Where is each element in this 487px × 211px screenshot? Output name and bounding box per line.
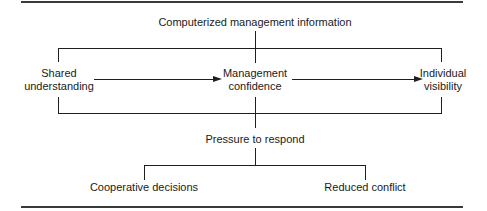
connector-bottom <box>255 148 256 165</box>
branch-right <box>365 165 366 180</box>
top-rule <box>21 1 463 3</box>
node-shared-understanding: Shared understanding <box>18 67 100 93</box>
arrow-right-shaft <box>292 79 415 80</box>
box-right-lower <box>441 97 442 114</box>
node-pressure-to-respond: Pressure to respond <box>195 133 315 146</box>
node-cooperative-decisions: Cooperative decisions <box>84 181 204 194</box>
connector-top <box>255 31 256 63</box>
arrow-left-shaft <box>94 79 214 80</box>
bottom-rule <box>21 206 463 208</box>
box-right-upper <box>441 48 442 62</box>
box-left-upper <box>58 48 59 62</box>
node-reduced-conflict: Reduced conflict <box>315 181 415 194</box>
branch-left <box>144 165 145 180</box>
node-management-confidence: Management confidence <box>220 67 290 93</box>
node-computerized-management-information: Computerized management information <box>155 16 355 29</box>
box-top <box>58 48 442 49</box>
box-bottom <box>58 113 442 114</box>
node-individual-visibility: Individual visibility <box>404 67 482 93</box>
box-left-lower <box>58 97 59 114</box>
connector-middle <box>255 97 256 128</box>
branch-horizontal <box>144 165 366 166</box>
